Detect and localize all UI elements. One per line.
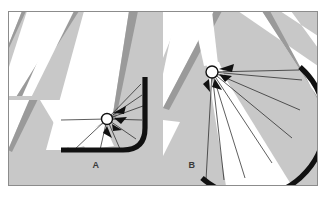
panel-label-b: B [189, 160, 196, 170]
figure-field: A [8, 11, 325, 197]
focus-ball-b [206, 66, 218, 78]
panel-label-a: A [93, 160, 100, 170]
focus-ball-a [102, 114, 113, 125]
field-step-a [8, 96, 40, 100]
figure-canvas: A [0, 0, 329, 200]
optics-figure: A [0, 0, 329, 200]
